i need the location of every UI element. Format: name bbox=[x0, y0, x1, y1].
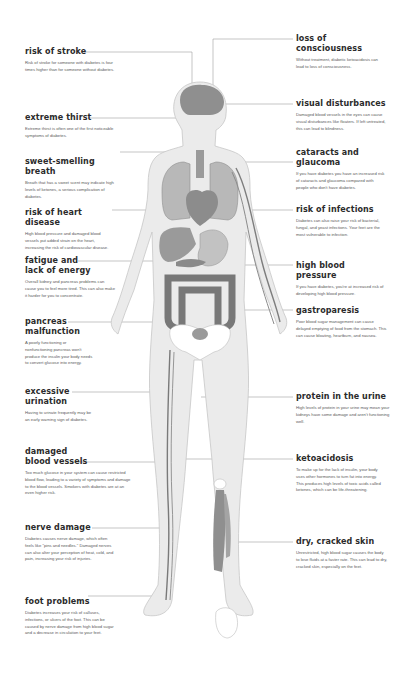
callout-damaged-blood-vessels: damaged blood vessels Too much glucose i… bbox=[25, 447, 133, 497]
callout-sweet-smelling-breath: sweet-smelling breath Breath that has a … bbox=[25, 157, 120, 200]
callout-text: Without treatment, diabetic ketoacidosis… bbox=[296, 57, 386, 71]
callout-dry-cracked-skin: dry, cracked skin Unrestricted, high blo… bbox=[296, 537, 388, 570]
callout-text: High levels of protein in your urine may… bbox=[296, 405, 391, 425]
callout-excessive-urination: excessive urination Having to urinate fr… bbox=[25, 387, 93, 424]
callout-title: loss of consciousness bbox=[296, 34, 386, 54]
callout-title: foot problems bbox=[25, 597, 115, 607]
callout-loss-of-consciousness: loss of consciousness Without treatment,… bbox=[296, 34, 386, 71]
callout-risk-of-stroke: risk of stroke Risk of stroke for someon… bbox=[25, 47, 115, 74]
callout-title: sweet-smelling breath bbox=[25, 157, 120, 177]
callout-title: risk of stroke bbox=[25, 47, 115, 57]
callout-protein-in-urine: protein in the urine High levels of prot… bbox=[296, 392, 391, 425]
callout-pancreas-malfunction: pancreas malfunction A poorly functionin… bbox=[25, 317, 93, 367]
callout-ketoacidosis: ketoacidosis To make up for the lack of … bbox=[296, 454, 384, 494]
callout-gastroparesis: gastroparesis Poor blood sugar managemen… bbox=[296, 306, 388, 339]
callout-title: ketoacidosis bbox=[296, 454, 384, 464]
kneecap bbox=[214, 479, 226, 489]
trachea bbox=[196, 150, 204, 178]
callout-extreme-thirst: extreme thirst Extreme thirst is often o… bbox=[25, 113, 115, 140]
callout-fatigue: fatigue and lack of energy Overall kidne… bbox=[25, 256, 115, 299]
callout-risk-of-infections: risk of infections Diabetes can also rai… bbox=[296, 205, 388, 238]
callout-text: Extreme thirst is often one of the first… bbox=[25, 126, 115, 140]
callout-title: risk of heart disease bbox=[25, 208, 115, 228]
callout-title: extreme thirst bbox=[25, 113, 115, 123]
callout-text: High blood pressure and damaged blood ve… bbox=[25, 231, 115, 251]
callout-title: protein in the urine bbox=[296, 392, 391, 402]
callout-risk-of-heart-disease: risk of heart disease High blood pressur… bbox=[25, 208, 115, 251]
callout-text: Risk of stroke for someone with diabetes… bbox=[25, 60, 115, 74]
callout-title: gastroparesis bbox=[296, 306, 388, 316]
bladder bbox=[192, 328, 208, 340]
callout-text: If you have diabetes you have an increas… bbox=[296, 171, 386, 191]
callout-text: Unrestricted, high blood sugar causes th… bbox=[296, 550, 388, 570]
callout-title: pancreas malfunction bbox=[25, 317, 93, 337]
callout-title: cataracts and glaucoma bbox=[296, 148, 386, 168]
foot-bones bbox=[216, 608, 238, 638]
callout-text: Poor blood sugar management can cause de… bbox=[296, 319, 388, 339]
callout-title: risk of infections bbox=[296, 205, 388, 215]
callout-text: Breath that has a sweet scent may indica… bbox=[25, 180, 120, 200]
callout-title: nerve damage bbox=[25, 523, 117, 533]
callout-text: To make up for the lack of insulin, your… bbox=[296, 467, 384, 494]
callout-text: Having to urinate frequently may be an e… bbox=[25, 410, 93, 424]
callout-cataracts-glaucoma: cataracts and glaucoma If you have diabe… bbox=[296, 148, 386, 191]
callout-nerve-damage: nerve damage Diabetes causes nerve damag… bbox=[25, 523, 117, 563]
diabetes-body-diagram: risk of stroke Risk of stroke for someon… bbox=[0, 0, 399, 693]
callout-title: excessive urination bbox=[25, 387, 93, 407]
callout-text: Diabetes causes nerve damage, which ofte… bbox=[25, 536, 117, 563]
callout-title: dry, cracked skin bbox=[296, 537, 388, 547]
callout-title: damaged blood vessels bbox=[25, 447, 133, 467]
callout-text: Diabetes increases your risk of calluses… bbox=[25, 610, 115, 637]
callout-title: visual disturbances bbox=[296, 99, 391, 109]
callout-visual-disturbances: visual disturbances Damaged blood vessel… bbox=[296, 99, 391, 132]
callout-high-blood-pressure: high blood pressure If you have diabetes… bbox=[296, 261, 388, 298]
callout-title: high blood pressure bbox=[296, 261, 388, 281]
callout-text: Overall kidney and pancreas problems can… bbox=[25, 279, 115, 299]
callout-text: If you have diabetes, you're at increase… bbox=[296, 284, 388, 298]
callout-title: fatigue and lack of energy bbox=[25, 256, 115, 276]
callout-foot-problems: foot problems Diabetes increases your ri… bbox=[25, 597, 115, 637]
callout-text: Damaged blood vessels in the eyes can ca… bbox=[296, 112, 391, 132]
callout-text: Diabetes can also raise your risk of bac… bbox=[296, 218, 388, 238]
callout-text: A poorly functioning or nonfunctioning p… bbox=[25, 340, 93, 367]
callout-text: Too much glucose in your system can caus… bbox=[25, 470, 133, 497]
